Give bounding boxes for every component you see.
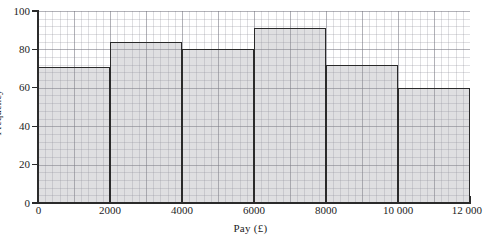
- y-tick-label: 40: [19, 121, 30, 132]
- y-tick-label: 60: [19, 82, 30, 93]
- histogram-bar: [110, 42, 182, 203]
- bar-series: [38, 11, 470, 203]
- x-tick-label: 0: [36, 205, 42, 216]
- y-tick-label: 0: [25, 198, 31, 209]
- y-tick-mark: [32, 87, 38, 88]
- y-tick-label: 100: [14, 6, 31, 17]
- x-tick-mark: [469, 196, 470, 203]
- x-tick-mark: [253, 196, 254, 203]
- y-tick-mark: [32, 164, 38, 165]
- x-tick-mark: [181, 196, 182, 203]
- histogram-bar: [182, 49, 254, 203]
- x-tick-label: 10 000: [383, 205, 413, 216]
- histogram-bar: [398, 88, 470, 203]
- plot-area: [38, 11, 470, 203]
- histogram-bar: [38, 67, 110, 203]
- x-tick-label: 8000: [315, 205, 337, 216]
- x-tick-label: 2000: [99, 205, 121, 216]
- x-tick-label: 4000: [171, 205, 193, 216]
- histogram-screenshot: 020406080100 0200040006000800010 00012 0…: [0, 0, 501, 245]
- y-tick-mark: [32, 126, 38, 127]
- y-axis-line: [37, 10, 39, 204]
- x-tick-label: 6000: [243, 205, 265, 216]
- histogram-bar: [254, 28, 326, 203]
- x-tick-mark: [109, 196, 110, 203]
- y-axis-title: Frequency: [0, 89, 3, 135]
- x-tick-mark: [397, 196, 398, 203]
- y-tick-label: 80: [19, 44, 30, 55]
- x-tick-mark: [37, 196, 38, 203]
- y-tick-mark: [32, 49, 38, 50]
- y-tick-label: 20: [19, 159, 30, 170]
- x-axis-title: Pay (£): [0, 222, 501, 234]
- x-tick-label: 12 000: [452, 205, 482, 216]
- y-tick-mark: [32, 10, 38, 11]
- x-tick-mark: [325, 196, 326, 203]
- histogram-bar: [326, 65, 398, 203]
